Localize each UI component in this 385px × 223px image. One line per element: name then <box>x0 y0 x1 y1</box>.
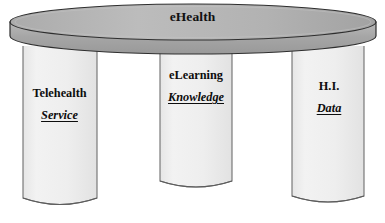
pillar-group <box>23 40 364 205</box>
ehealth-pillars-diagram: eHealth Telehealth Service eLearning Kno… <box>0 0 385 223</box>
pillar-health-informatics <box>292 40 364 202</box>
pillar-telehealth <box>23 40 97 205</box>
ehealth-platform-disc <box>10 4 376 54</box>
diagram-canvas <box>0 0 385 223</box>
disc-top-ellipse <box>10 4 376 40</box>
pillar-elearning <box>160 40 232 187</box>
